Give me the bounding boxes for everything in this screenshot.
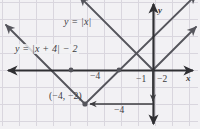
vertex-point-label: (−4, −2) — [49, 92, 82, 102]
x-intercept-marker-left — [69, 68, 74, 73]
transformed-function-label: y = |x + 4| − 2 — [14, 44, 79, 54]
vertex-point-marker — [82, 101, 87, 106]
absolute-value-graph-figure: y = |x| y = |x + 4| − 2 (−4, −2) −4 −4 −… — [0, 0, 200, 129]
x-intercept-marker-right — [117, 68, 122, 73]
parent-function-label: y = |x| — [64, 17, 92, 27]
x-axis-label: x — [186, 74, 191, 83]
horizontal-shift-top-label: −4 — [90, 72, 101, 82]
vertical-tick-label: −1 — [136, 75, 147, 85]
horizontal-shift-bottom-label: −4 — [114, 106, 125, 116]
vertical-shift-label: −2 — [157, 75, 168, 85]
y-axis-label: y — [158, 6, 162, 15]
graph-canvas — [0, 0, 200, 129]
